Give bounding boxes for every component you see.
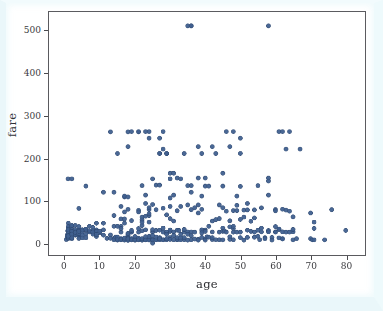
x-tick-mark — [170, 256, 171, 260]
x-tick-label: 70 — [296, 261, 326, 271]
plot-area — [48, 11, 366, 256]
y-tick-mark — [44, 159, 48, 160]
x-tick-mark — [347, 256, 348, 260]
x-tick-label: 30 — [155, 261, 185, 271]
y-tick-label: 500 — [8, 25, 41, 35]
x-tick-label: 20 — [120, 261, 150, 271]
x-tick-label: 60 — [261, 261, 291, 271]
x-tick-mark — [64, 256, 65, 260]
x-tick-mark — [99, 256, 100, 260]
y-tick-label: 400 — [8, 68, 41, 78]
x-tick-mark — [205, 256, 206, 260]
y-tick-mark — [44, 201, 48, 202]
x-tick-label: 80 — [332, 261, 362, 271]
y-tick-label: 0 — [8, 239, 41, 249]
x-tick-mark — [135, 256, 136, 260]
scatter-points-canvas — [49, 12, 365, 255]
x-axis-label: age — [48, 277, 366, 291]
x-tick-mark — [311, 256, 312, 260]
x-tick-mark — [241, 256, 242, 260]
x-tick-label: 10 — [84, 261, 114, 271]
x-tick-label: 50 — [226, 261, 256, 271]
x-tick-label: 40 — [190, 261, 220, 271]
y-axis-label: fare — [5, 85, 19, 165]
y-tick-mark — [44, 30, 48, 31]
y-tick-mark — [44, 73, 48, 74]
y-tick-mark — [44, 244, 48, 245]
x-tick-mark — [276, 256, 277, 260]
scatter-plot-figure: 01020304050607080 0100200300400500 age f… — [0, 0, 383, 311]
y-tick-label: 100 — [8, 196, 41, 206]
x-tick-label: 0 — [49, 261, 79, 271]
y-tick-mark — [44, 116, 48, 117]
